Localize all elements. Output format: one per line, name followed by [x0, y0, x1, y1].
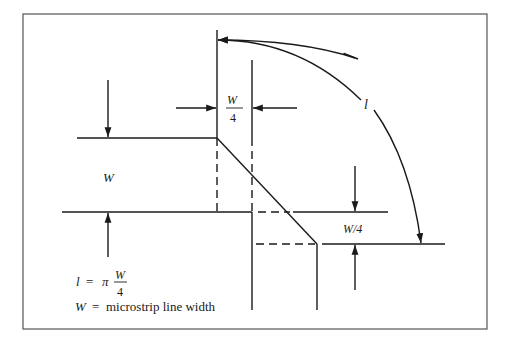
arc-length-l [218, 40, 361, 100]
eq1-equals: = [86, 274, 93, 289]
arc-length-l-upper [218, 40, 355, 58]
label-wq-top-num: W [227, 93, 238, 107]
label-l-arc: l [364, 97, 368, 112]
eq2-equals: = [92, 299, 99, 314]
eq1-den: 4 [117, 285, 123, 299]
eq1-pi: π [102, 274, 109, 289]
eq2-lhs: W [75, 299, 87, 314]
miter-diagonal [217, 138, 317, 244]
legend: l = π W 4 W = microstrip line width [75, 268, 216, 314]
eq1-lhs: l [76, 274, 80, 289]
label-wq-right: W/4 [343, 222, 362, 236]
label-w-left: W [103, 170, 115, 185]
eq2-rhs: microstrip line width [106, 299, 216, 314]
arc-length-l-lower [374, 110, 421, 243]
eq1-num: W [115, 268, 126, 282]
label-wq-top-den: 4 [230, 111, 236, 125]
microstrip-bend-diagram: W 4 l W W/4 l = π W 4 W = microstrip lin… [0, 0, 509, 348]
arc-length-l-upper-seg [344, 54, 358, 60]
